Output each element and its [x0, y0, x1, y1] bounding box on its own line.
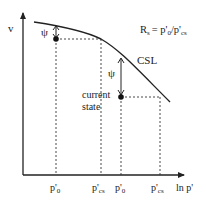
x-tick-pcs-1: p'cs	[92, 182, 105, 195]
state-point-2	[118, 94, 124, 100]
psi-label-2: ψ	[108, 67, 115, 79]
x-axis-label: ln p'	[176, 182, 193, 193]
current-state-label-line2: state	[82, 101, 101, 112]
csl-state-diagram: v ψ ψ CSL current state Rs= p'0/p'cs p'0…	[0, 0, 206, 207]
x-tick-p0-2: p'0	[115, 182, 126, 195]
csl-label: CSL	[137, 54, 157, 66]
diagram-svg: v ψ ψ CSL current state Rs= p'0/p'cs p'0…	[0, 0, 206, 207]
ratio-formula: Rs= p'0/p'cs	[140, 24, 187, 37]
current-state-label-line1: current	[82, 89, 111, 100]
state-point-1	[53, 36, 59, 42]
psi-label-1: ψ	[41, 26, 48, 38]
y-axis-label: v	[8, 22, 14, 34]
svg-text:Rs= p'0/p'cs: Rs= p'0/p'cs	[140, 24, 187, 37]
x-tick-pcs-2: p'cs	[151, 182, 164, 195]
x-tick-p0-1: p'0	[50, 182, 61, 195]
